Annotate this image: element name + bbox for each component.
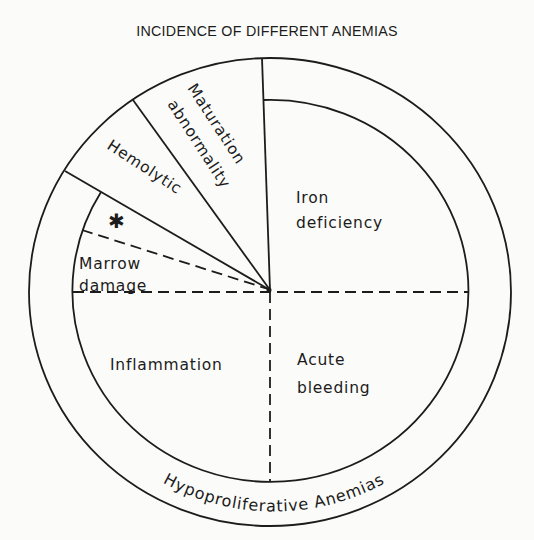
- label-marrow-damage-line1: Marrow: [79, 255, 141, 273]
- maturation-right-boundary: [262, 58, 270, 290]
- asterisk-marker: ✱: [108, 209, 126, 233]
- label-inflammation: Inflammation: [110, 356, 223, 374]
- label-acute-bleeding-line2: bleeding: [297, 379, 370, 397]
- label-iron-deficiency-line2: deficiency: [296, 214, 383, 232]
- label-acute-bleeding-line1: Acute: [297, 351, 345, 369]
- label-marrow-damage-line2: damage: [79, 277, 147, 295]
- label-iron-deficiency-line1: Iron: [296, 189, 329, 207]
- anemia-pie-diagram: Iron deficiency Acute bleeding Inflammat…: [0, 0, 534, 540]
- label-hypoproliferative-anemias: Hypoproliferative Anemias: [161, 469, 388, 515]
- maturation-hemolytic-boundary: [133, 100, 270, 290]
- label-hemolytic: Hemolytic: [104, 136, 185, 198]
- ring-label-textpath: Hypoproliferative Anemias: [161, 469, 388, 515]
- center-point: [267, 288, 272, 293]
